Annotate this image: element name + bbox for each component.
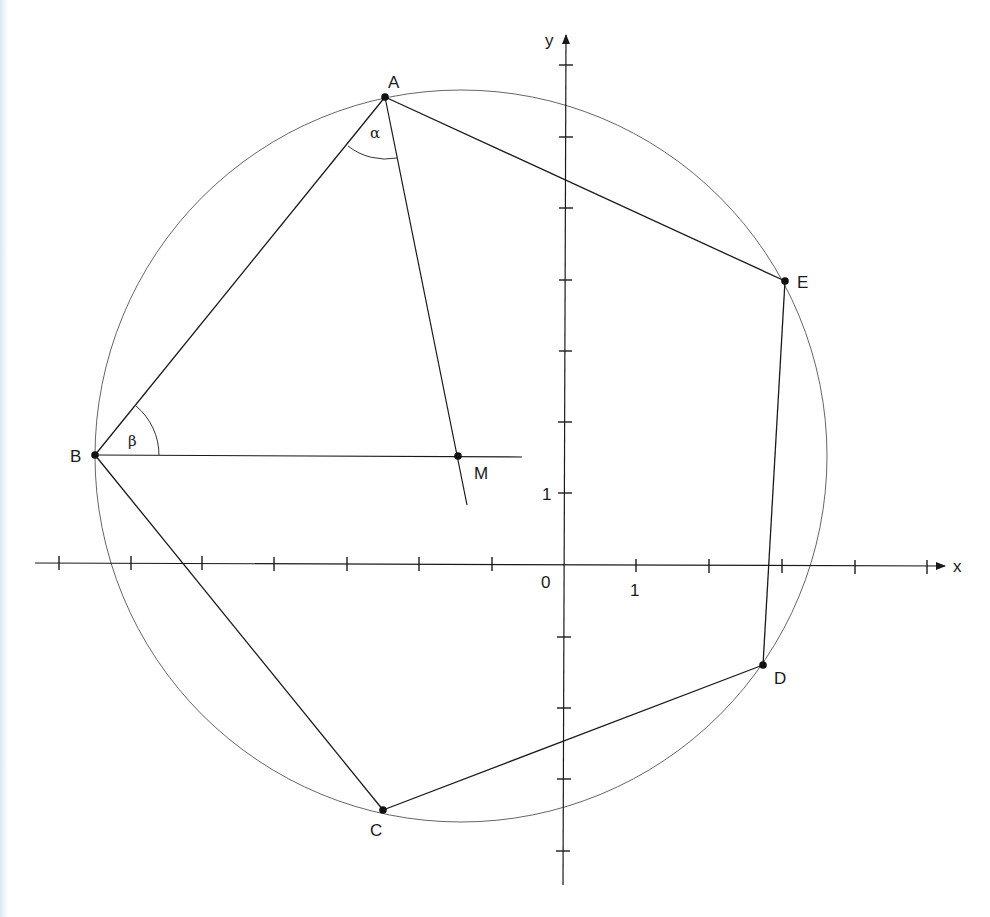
side-ab xyxy=(95,97,385,455)
point-a xyxy=(381,93,389,101)
point-c xyxy=(379,806,387,814)
angle-beta-label: β xyxy=(128,432,137,450)
angle-beta-arc xyxy=(136,406,159,455)
segment-am xyxy=(385,97,467,505)
y-unit-label: 1 xyxy=(542,485,551,504)
point-a-label: A xyxy=(388,73,400,92)
point-e-label: E xyxy=(797,273,808,292)
x-unit-label: 1 xyxy=(630,581,639,600)
side-ae xyxy=(385,97,785,281)
point-d-label: D xyxy=(774,669,786,688)
pentagon xyxy=(95,97,785,810)
angle-alpha-label: α xyxy=(370,124,380,142)
point-e xyxy=(781,277,789,285)
point-b-label: B xyxy=(70,447,81,466)
point-c-label: C xyxy=(370,821,382,840)
x-axis-label: x xyxy=(953,557,962,576)
point-d xyxy=(759,661,767,669)
angle-alpha-arc xyxy=(348,146,397,159)
point-m-label: M xyxy=(474,464,488,483)
points xyxy=(91,93,789,814)
geometry-diagram: x y 0 1 1 α β A B C D E M xyxy=(0,0,990,917)
side-bc xyxy=(95,455,383,810)
point-b xyxy=(91,451,99,459)
y-axis-label: y xyxy=(545,31,554,50)
y-axis xyxy=(556,35,573,885)
point-m xyxy=(454,452,462,460)
origin-label: 0 xyxy=(541,573,550,592)
side-ed xyxy=(763,281,785,665)
side-dc xyxy=(383,665,763,810)
